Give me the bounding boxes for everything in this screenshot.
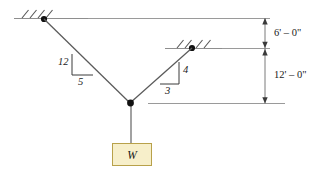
dimension-arrow-up-mid: [262, 49, 267, 55]
right-slope-run-label: 3: [165, 86, 170, 97]
weight-block-label: W: [113, 144, 151, 165]
engineering-diagram: 12 5 4 3 6' – 0" 12' – 0" W: [0, 0, 316, 176]
left-support: [14, 10, 88, 22]
upper-dimension-label: 6' – 0": [274, 28, 301, 39]
weight-block: W: [112, 143, 152, 166]
center-joint: [127, 100, 134, 107]
lower-dimension-label: 12' – 0": [274, 70, 306, 81]
right-support: [165, 40, 222, 51]
dimension-arrow-down-bottom: [262, 97, 267, 103]
right-cable: [130, 48, 192, 103]
left-support-hatching: [22, 10, 53, 18]
right-slope-triangle: [160, 62, 179, 84]
reference-lines: [78, 19, 285, 104]
dimension-lines: [262, 18, 267, 104]
right-slope-rise-label: 4: [183, 65, 188, 76]
dimension-arrow-down-mid: [262, 42, 267, 48]
left-cable: [44, 19, 130, 103]
cables: [44, 19, 192, 144]
left-slope-run-label: 5: [78, 77, 83, 88]
diagram-canvas: [0, 0, 316, 176]
left-slope-rise-label: 12: [58, 57, 69, 68]
